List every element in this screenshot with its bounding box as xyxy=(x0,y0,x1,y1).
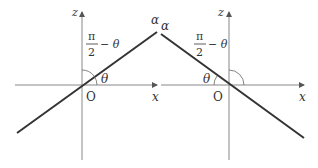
left-pi-numerator: π xyxy=(88,30,95,43)
diagram-canvas: z x O θ π 2 − θ α α z x O θ π 2 − θ xyxy=(0,0,318,168)
left-x-label: x xyxy=(152,90,159,104)
left-angle-arc-complement xyxy=(82,70,94,76)
right-pi-numerator: π xyxy=(196,30,203,43)
right-x-label: x xyxy=(299,90,306,104)
right-angle-arc-complement xyxy=(229,70,244,85)
left-pi-denominator: 2 xyxy=(88,46,95,59)
right-alpha-label: α xyxy=(161,19,169,33)
left-diagram: z x O θ π 2 − θ xyxy=(15,6,159,160)
right-origin-label: O xyxy=(213,90,223,104)
left-origin-label: O xyxy=(86,90,96,104)
right-angle-arc-theta xyxy=(214,76,217,85)
left-alpha-label: α xyxy=(151,13,159,27)
left-line-alpha xyxy=(17,32,157,133)
left-complement-suffix: − θ xyxy=(100,38,120,51)
right-diagram: z x O θ π 2 − θ xyxy=(161,6,306,160)
right-complement-suffix: − θ xyxy=(208,38,228,51)
right-pi-denominator: 2 xyxy=(196,46,203,59)
right-line-alpha xyxy=(161,34,304,138)
right-theta-label: θ xyxy=(203,72,211,86)
right-z-label: z xyxy=(217,6,224,19)
left-z-label: z xyxy=(71,6,78,19)
left-theta-label: θ xyxy=(101,72,109,86)
